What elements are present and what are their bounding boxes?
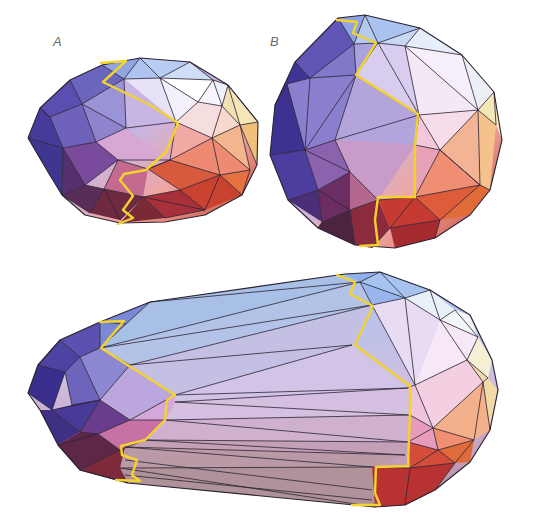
figure-caption-cutoff bbox=[80, 526, 530, 532]
polyhedron-b bbox=[270, 15, 502, 248]
polyhedron-c bbox=[28, 272, 498, 507]
polyhedron-a bbox=[28, 58, 258, 224]
figure-canvas bbox=[0, 0, 534, 532]
